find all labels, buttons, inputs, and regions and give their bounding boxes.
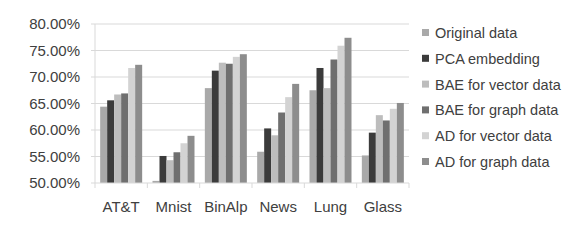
legend-item: PCA embedding xyxy=(422,51,540,67)
bar xyxy=(324,88,331,183)
bar xyxy=(345,38,352,183)
bar xyxy=(338,46,345,183)
bar xyxy=(212,71,219,183)
bar-group-mnist xyxy=(153,136,195,183)
bar xyxy=(160,156,167,183)
legend-swatch xyxy=(422,29,429,36)
bar xyxy=(226,64,233,183)
bar xyxy=(181,143,188,183)
bar xyxy=(271,135,278,183)
bar xyxy=(114,94,121,183)
bar xyxy=(390,109,397,183)
y-axis-tick-labels: 50.00%55.00%60.00%65.00%70.00%75.00%80.0… xyxy=(29,15,80,191)
bar xyxy=(107,100,114,183)
legend-item: AD for graph data xyxy=(422,154,550,170)
x-tick-label: Glass xyxy=(364,198,402,215)
bar xyxy=(167,160,174,183)
y-tick-label: 55.00% xyxy=(29,148,80,165)
bar xyxy=(362,155,369,183)
bar xyxy=(397,103,404,183)
x-axis-tick-labels: AT&TMnistBinAlpNewsLungGlass xyxy=(103,198,402,215)
bar xyxy=(383,120,390,183)
bar xyxy=(310,90,317,183)
legend-swatch xyxy=(422,106,429,113)
legend-item: AD for vector data xyxy=(422,128,553,144)
y-tick-label: 75.00% xyxy=(29,42,80,59)
legend: Original dataPCA embeddingBAE for vector… xyxy=(422,25,562,170)
y-tick-label: 50.00% xyxy=(29,174,80,191)
bar xyxy=(135,65,142,183)
bar xyxy=(100,107,107,183)
bar xyxy=(331,60,338,183)
grouped-bar-chart: 50.00%55.00%60.00%65.00%70.00%75.00%80.0… xyxy=(0,0,587,226)
x-tick-label: BinAlp xyxy=(204,198,247,215)
bar-group-news xyxy=(257,84,299,183)
bar xyxy=(240,54,247,183)
bar-group-at-t xyxy=(100,65,142,183)
bar xyxy=(233,57,240,183)
bar xyxy=(285,97,292,183)
legend-swatch xyxy=(422,55,429,62)
bar-group-binalp xyxy=(205,54,247,183)
legend-label: AD for graph data xyxy=(435,154,550,170)
legend-label: AD for vector data xyxy=(435,128,553,144)
legend-label: PCA embedding xyxy=(435,51,540,67)
legend-label: BAE for graph data xyxy=(435,102,559,118)
x-tick-label: AT&T xyxy=(103,198,140,215)
legend-label: Original data xyxy=(435,25,518,41)
legend-swatch xyxy=(422,81,429,88)
bar xyxy=(292,84,299,183)
bar-group-lung xyxy=(310,38,352,183)
x-tick-label: Mnist xyxy=(156,198,193,215)
legend-item: BAE for vector data xyxy=(422,77,562,93)
y-tick-label: 60.00% xyxy=(29,121,80,138)
bar xyxy=(264,128,271,183)
bar xyxy=(128,68,135,183)
bar-group-glass xyxy=(362,103,404,183)
y-tick-label: 80.00% xyxy=(29,15,80,32)
y-tick-label: 65.00% xyxy=(29,95,80,112)
legend-item: Original data xyxy=(422,25,518,41)
bar xyxy=(188,136,195,183)
bars xyxy=(100,38,404,183)
bar xyxy=(205,88,212,183)
bar xyxy=(219,63,226,183)
bar xyxy=(257,152,264,183)
bar xyxy=(317,68,324,183)
chart-canvas: 50.00%55.00%60.00%65.00%70.00%75.00%80.0… xyxy=(0,0,587,226)
legend-swatch xyxy=(422,132,429,139)
legend-swatch xyxy=(422,158,429,165)
bar xyxy=(369,133,376,183)
legend-item: BAE for graph data xyxy=(422,102,559,118)
y-tick-label: 70.00% xyxy=(29,68,80,85)
bar xyxy=(121,93,128,183)
bar xyxy=(278,113,285,183)
legend-label: BAE for vector data xyxy=(435,77,562,93)
x-tick-label: Lung xyxy=(314,198,347,215)
bar xyxy=(376,115,383,183)
x-tick-label: News xyxy=(259,198,297,215)
bar xyxy=(174,152,181,183)
